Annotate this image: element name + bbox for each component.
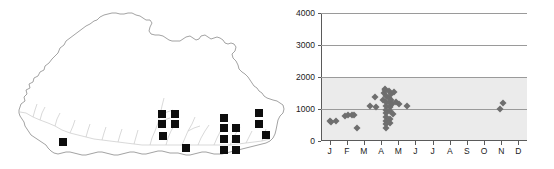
y-tick-label: 4000 (292, 9, 315, 18)
x-tick-mark (347, 141, 348, 145)
bhutan-border-outline (19, 13, 284, 155)
map-record-square (171, 120, 179, 128)
map-record-square (262, 131, 270, 139)
x-axis-line (321, 140, 527, 141)
y-tick-label: 2000 (292, 73, 315, 82)
x-tick-mark (398, 141, 399, 145)
map-record-square (171, 110, 179, 118)
map-record-square (158, 110, 166, 118)
x-tick-mark (484, 141, 485, 145)
figure-container: 01000200030004000 JFMAMJJASOND (0, 0, 554, 169)
map-record-square (232, 146, 240, 154)
x-tick-label: F (340, 147, 354, 156)
map-record-square (220, 114, 228, 122)
x-tick-label: J (426, 147, 440, 156)
altitude-month-scatter-panel: 01000200030004000 JFMAMJJASOND (292, 0, 554, 169)
gridline (321, 77, 527, 78)
map-record-square (232, 135, 240, 143)
y-tick-mark (318, 141, 321, 142)
map-record-square (159, 132, 167, 140)
y-tick-mark (318, 77, 321, 78)
x-tick-label: M (357, 147, 371, 156)
map-record-square (59, 138, 67, 146)
x-tick-label: S (460, 147, 474, 156)
x-tick-mark (330, 141, 331, 145)
distribution-map-panel (0, 0, 290, 169)
x-tick-mark (450, 141, 451, 145)
x-tick-mark (501, 141, 502, 145)
map-record-square (158, 120, 166, 128)
x-tick-label: A (443, 147, 457, 156)
x-tick-mark (364, 141, 365, 145)
x-tick-label: N (494, 147, 508, 156)
map-record-square (255, 120, 263, 128)
y-tick-label: 1000 (292, 105, 315, 114)
y-tick-mark (318, 13, 321, 14)
x-tick-mark (415, 141, 416, 145)
x-tick-label: J (323, 147, 337, 156)
map-record-square (255, 109, 263, 117)
x-tick-label: D (511, 147, 525, 156)
map-record-square (220, 146, 228, 154)
map-record-square (220, 124, 228, 132)
y-tick-label: 0 (292, 137, 315, 146)
x-tick-mark (433, 141, 434, 145)
map-record-square (232, 124, 240, 132)
map-record-square (182, 144, 190, 152)
x-tick-mark (381, 141, 382, 145)
x-tick-mark (467, 141, 468, 145)
y-tick-mark (318, 45, 321, 46)
y-tick-label: 3000 (292, 41, 315, 50)
gridline (321, 45, 527, 46)
map-record-square (220, 135, 228, 143)
x-tick-mark (518, 141, 519, 145)
gridline (321, 13, 527, 14)
x-tick-label: M (391, 147, 405, 156)
bhutan-map-svg (0, 0, 290, 169)
y-tick-mark (318, 109, 321, 110)
x-tick-label: J (408, 147, 422, 156)
x-tick-label: O (477, 147, 491, 156)
x-tick-label: A (374, 147, 388, 156)
plot-area (321, 13, 527, 141)
